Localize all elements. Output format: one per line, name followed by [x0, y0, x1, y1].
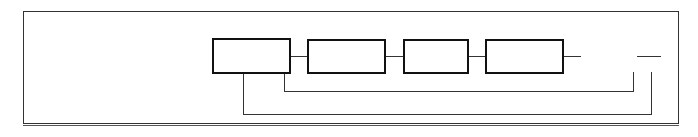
block-rf-wattmeter	[403, 39, 469, 74]
block-dut-transmitter	[307, 39, 386, 74]
bottom-rule	[23, 125, 679, 126]
line-scope-out-run	[243, 114, 652, 115]
block-rf-power-attenuator	[485, 39, 564, 74]
line-ch1-rise	[633, 72, 634, 92]
line-wattmeter-to-rfpower	[468, 56, 486, 57]
line-ext-trig-rise	[651, 72, 652, 115]
line-scope-out-drop	[243, 73, 244, 115]
line-rfpower-to-step	[563, 56, 581, 57]
line-gen-to-dut	[290, 56, 308, 57]
line-dut-to-wattmeter	[385, 56, 403, 57]
block-keying-test-generator	[212, 38, 291, 74]
line-step-to-scope-ch2	[637, 56, 661, 57]
line-key-out-run	[284, 91, 633, 92]
